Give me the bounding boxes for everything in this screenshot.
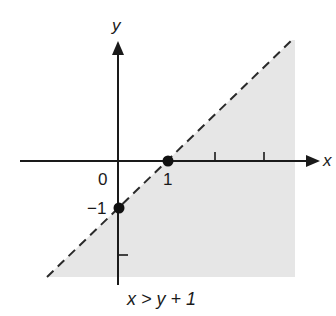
x-axis-arrow-icon [306,155,320,167]
graph-svg [0,0,336,316]
x-axis-label: x [323,152,332,169]
y-tick-label-minus-1: −1 [87,200,106,217]
y-axis-arrow-icon [112,41,124,55]
x-tick-label-1: 1 [163,171,172,188]
point-x-intercept [163,156,174,167]
inequality-caption: x > y + 1 [127,290,196,308]
point-y-intercept [114,203,125,214]
origin-label: 0 [98,171,107,188]
y-axis-label: y [112,17,121,34]
inequality-graph: y x 0 1 −1 x > y + 1 [0,0,336,316]
